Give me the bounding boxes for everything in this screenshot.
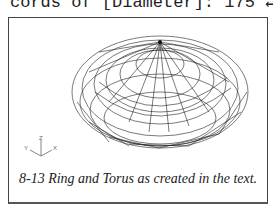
torus-wireframe-image — [69, 22, 251, 157]
figure-caption: 8-13 Ring and Torus as created in the te… — [19, 171, 257, 187]
svg-text:Y: Y — [24, 145, 28, 151]
command-line-text: cords of [Diameter]: 175 ↵ — [10, 0, 273, 12]
svg-text:X: X — [53, 145, 57, 151]
figure-frame: Z Y X 8-13 Ring and Torus as created in … — [8, 17, 268, 204]
svg-text:Z: Z — [39, 135, 43, 141]
ucs-axis-icon: Z Y X — [23, 134, 59, 162]
